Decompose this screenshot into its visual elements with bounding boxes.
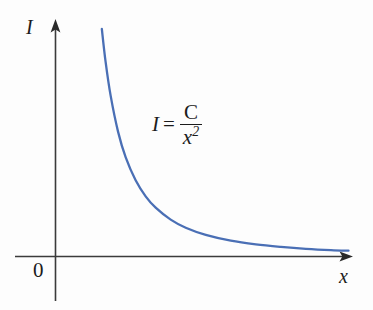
denominator-base: x	[183, 125, 192, 149]
graph-canvas	[0, 0, 373, 310]
equation-equals-sign: =	[163, 114, 175, 135]
equation-left-side: I	[152, 114, 159, 135]
denominator-exponent: 2	[192, 124, 199, 139]
equation-denominator: x2	[180, 125, 202, 148]
y-axis-label: I	[26, 17, 33, 37]
equation-annotation: I = C x2	[152, 101, 202, 148]
inverse-square-law-figure: I x 0 I = C x2	[0, 0, 373, 310]
origin-label: 0	[33, 260, 44, 281]
x-axis-label: x	[339, 266, 348, 286]
inverse-square-curve	[102, 29, 349, 251]
equation-fraction: C x2	[180, 101, 202, 148]
equation-numerator: C	[181, 101, 201, 124]
